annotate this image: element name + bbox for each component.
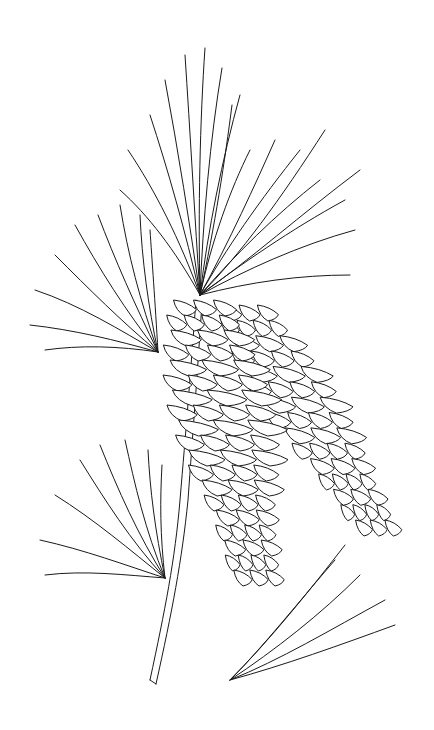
- lower-needle-cluster: [40, 440, 165, 578]
- illustration-svg: [0, 0, 434, 730]
- pine-branch-illustration: [0, 0, 434, 730]
- left-needle-cluster: [30, 205, 158, 352]
- upper-needle-cluster: [120, 48, 360, 295]
